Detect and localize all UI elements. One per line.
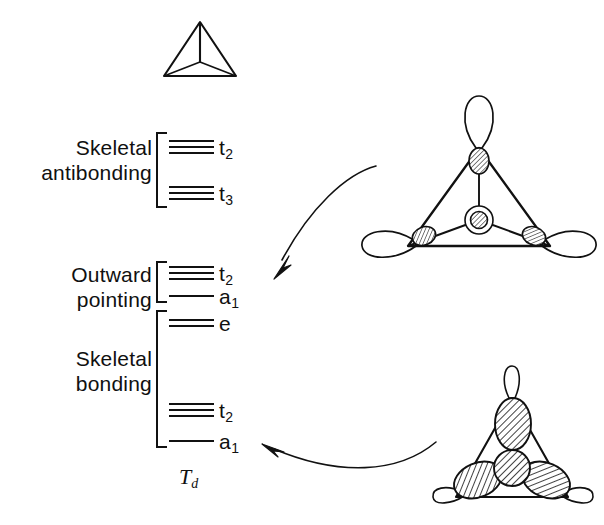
group-label-line2: pointing bbox=[0, 287, 152, 312]
group-label-line2: antibonding bbox=[0, 160, 152, 185]
group-label-skeletal-bonding: Skeletal bonding bbox=[0, 346, 152, 396]
level-line bbox=[169, 325, 214, 327]
level-line bbox=[169, 403, 214, 405]
arrow-outward-a1 bbox=[248, 160, 378, 300]
level-line bbox=[169, 440, 214, 442]
group-label-line2: bonding bbox=[0, 371, 152, 396]
level-label-e-bonding: e bbox=[219, 313, 231, 334]
level-label-t2-outward: t2 bbox=[219, 263, 233, 284]
inward-lobe-apex bbox=[495, 398, 531, 450]
central-core bbox=[471, 212, 488, 229]
level-line bbox=[169, 415, 214, 417]
level-label-a1-outward: a1 bbox=[219, 286, 238, 307]
group-label-line1: Skeletal bbox=[0, 346, 152, 371]
skeletal-bonding-a1-orbital bbox=[398, 358, 598, 525]
level-label-t2-bonding: t2 bbox=[219, 400, 233, 421]
outward-pointing-a1-orbital bbox=[372, 98, 600, 278]
tetrahedron-skeleton bbox=[160, 18, 240, 80]
level-label-t3-antibonding: t3 bbox=[219, 183, 233, 204]
group-label-line1: Outward bbox=[0, 262, 152, 287]
level-line bbox=[169, 295, 214, 297]
group-label-skeletal-antibonding: Skeletal antibonding bbox=[0, 135, 152, 185]
inward-lobe-apex bbox=[469, 148, 489, 174]
level-line bbox=[169, 319, 214, 321]
level-line bbox=[169, 278, 214, 280]
level-line bbox=[169, 140, 214, 142]
outward-loop-apex bbox=[504, 366, 519, 398]
level-line bbox=[169, 186, 214, 188]
level-label-t2-antibonding: t2 bbox=[219, 137, 233, 158]
level-line bbox=[169, 272, 214, 274]
level-line bbox=[169, 152, 214, 154]
bracket-skeletal-antibonding bbox=[156, 132, 167, 208]
level-label-a1-bonding: a1 bbox=[219, 431, 238, 452]
level-line bbox=[169, 198, 214, 200]
bracket-skeletal-bonding bbox=[156, 310, 167, 448]
level-line bbox=[169, 266, 214, 268]
arrowhead bbox=[262, 444, 284, 457]
mo-energy-level-diagram: Skeletal antibonding Outward pointing Sk… bbox=[0, 0, 604, 525]
level-line bbox=[169, 409, 214, 411]
point-group-label: Td bbox=[179, 466, 198, 488]
group-label-line1: Skeletal bbox=[0, 135, 152, 160]
outward-lobe-apex bbox=[465, 96, 493, 148]
level-line bbox=[169, 146, 214, 148]
level-line bbox=[169, 192, 214, 194]
central-lobe bbox=[494, 450, 530, 486]
group-label-outward-pointing: Outward pointing bbox=[0, 262, 152, 312]
bracket-outward-pointing bbox=[156, 261, 167, 303]
